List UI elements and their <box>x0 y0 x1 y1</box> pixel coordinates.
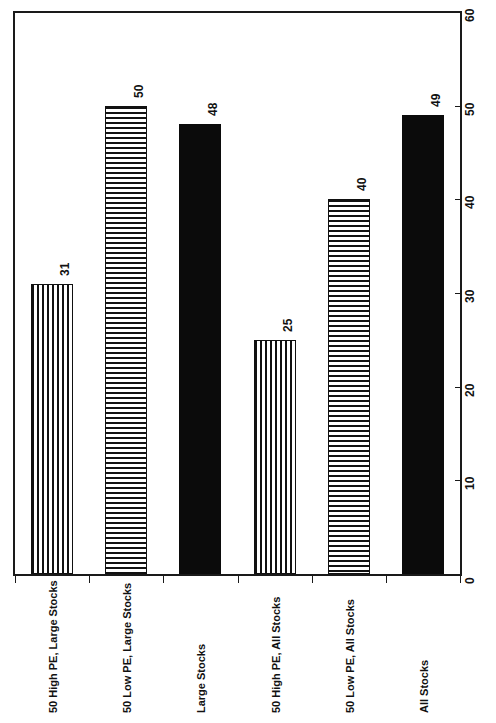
bar-value-label: 25 <box>281 319 295 332</box>
category-label: 50 Low PE, All Stocks <box>344 599 356 713</box>
value-axis-tick-label: 0 <box>463 554 477 584</box>
value-axis-tick <box>455 387 462 388</box>
bar-value-label: 49 <box>429 94 443 107</box>
plot-area-frame <box>13 11 461 574</box>
bar-value-label: 40 <box>355 178 369 191</box>
bar-value-label: 31 <box>58 263 72 276</box>
category-axis-tick <box>312 576 313 583</box>
value-axis-tick-label: 20 <box>463 367 477 397</box>
value-axis-tick <box>455 574 462 575</box>
category-label: All Stocks <box>418 660 430 713</box>
value-axis-tick-label: 10 <box>463 460 477 490</box>
category-label: 50 Low PE, Large Stocks <box>121 583 133 713</box>
value-axis-tick-label: 30 <box>463 273 477 303</box>
category-label: Large Stocks <box>195 644 207 713</box>
value-axis-tick <box>455 106 462 107</box>
bar-horizontal-stripe[interactable] <box>328 199 370 574</box>
value-axis-tick-label: 40 <box>463 179 477 209</box>
value-axis-tick-label: 60 <box>463 0 477 22</box>
category-label: 50 High PE, All Stocks <box>270 597 282 713</box>
category-axis-tick <box>386 576 387 583</box>
bar-solid[interactable] <box>402 115 444 574</box>
category-axis-tick <box>163 576 164 583</box>
value-axis-tick <box>455 199 462 200</box>
value-axis-tick-label: 50 <box>463 86 477 116</box>
bar-horizontal-stripe[interactable] <box>105 106 147 574</box>
value-axis-tick <box>455 12 462 13</box>
category-axis-tick <box>238 576 239 583</box>
bar-value-label: 48 <box>206 103 220 116</box>
bar-vertical-stripe[interactable] <box>31 284 73 574</box>
value-axis-tick <box>455 480 462 481</box>
category-axis-tick <box>15 576 16 583</box>
bar-value-label: 50 <box>132 85 146 98</box>
category-label: 50 High PE, Large Stocks <box>47 580 59 713</box>
category-axis-tick <box>89 576 90 583</box>
bar-vertical-stripe[interactable] <box>254 340 296 574</box>
category-axis-tick <box>460 576 461 583</box>
bar-solid[interactable] <box>179 124 221 574</box>
bar-chart: 6050403020100 315048254049 50 High PE, L… <box>0 0 496 723</box>
value-axis-tick <box>455 293 462 294</box>
